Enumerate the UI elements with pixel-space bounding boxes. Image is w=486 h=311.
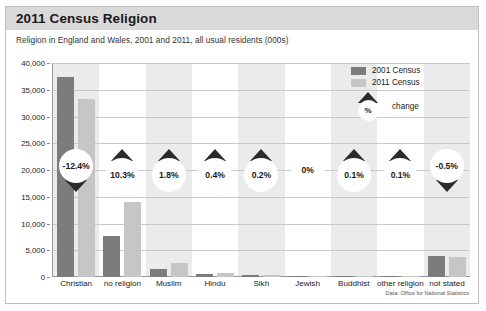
y-tick-mark xyxy=(47,143,50,144)
y-axis: 40,00035,00030,00025,00020,00015,00010,0… xyxy=(6,63,50,277)
card-header: 2011 Census Religion xyxy=(6,7,478,30)
x-tick-label: Muslim xyxy=(146,279,192,288)
legend-item-change: % change xyxy=(351,91,476,121)
y-tick-mark xyxy=(47,250,50,251)
change-badge: 0% xyxy=(288,139,328,201)
change-badge-label: 10.3% xyxy=(105,158,139,192)
legend: 2001 Census 2011 Census % change xyxy=(351,65,476,121)
y-tick-mark xyxy=(47,170,50,171)
bar-group: 1.8% xyxy=(146,63,192,277)
change-badge-label: 0.1% xyxy=(383,158,417,192)
y-tick-label: 10,000 xyxy=(21,219,45,228)
bar-2001 xyxy=(428,256,445,277)
bar-group: 0% xyxy=(285,63,331,277)
x-tick-label: Sikh xyxy=(238,279,284,288)
x-tick-label: Jewish xyxy=(284,279,330,288)
x-tick-label: Christian xyxy=(53,279,99,288)
y-tick-mark xyxy=(47,224,50,225)
change-badge: 0.1% xyxy=(334,139,374,201)
x-tick-label: Hindu xyxy=(192,279,238,288)
change-marker-icon: % xyxy=(351,91,385,121)
change-badge: 0.1% xyxy=(380,139,420,201)
legend-label-change: change xyxy=(392,102,419,111)
percent-badge-icon: % xyxy=(358,100,379,121)
bar-2001 xyxy=(289,276,306,277)
bar-group: 0.4% xyxy=(192,63,238,277)
bar-group: 0.2% xyxy=(238,63,284,277)
change-badge: 1.8% xyxy=(149,139,189,201)
y-tick-label: 20,000 xyxy=(21,166,45,175)
change-badge-label: 0% xyxy=(291,153,325,187)
bar-2011 xyxy=(124,202,141,277)
y-tick-label: 5,000 xyxy=(25,246,45,255)
change-badge: 0.2% xyxy=(241,139,281,201)
y-tick-mark xyxy=(47,90,50,91)
y-tick-mark xyxy=(47,197,50,198)
chart-subtitle: Religion in England and Wales, 2001 and … xyxy=(16,35,289,45)
legend-label-2011: 2011 Census xyxy=(372,78,420,87)
bar-2001 xyxy=(335,276,352,277)
chart-card: 2011 Census Religion Religion in England… xyxy=(5,6,479,304)
page-title: 2011 Census Religion xyxy=(16,11,157,26)
change-badge: 10.3% xyxy=(102,139,142,201)
change-badge-label: 0.1% xyxy=(337,158,371,192)
change-badge-label: 0.2% xyxy=(244,158,278,192)
y-tick-label: 40,000 xyxy=(21,59,45,68)
change-badge-label: 0.4% xyxy=(198,158,232,192)
y-tick-label: 35,000 xyxy=(21,85,45,94)
bar-group: 10.3% xyxy=(99,63,145,277)
legend-item-2011: 2011 Census xyxy=(351,77,476,88)
bar-2011 xyxy=(449,257,466,277)
legend-swatch-2001-icon xyxy=(351,67,366,75)
change-badge-label: -12.4% xyxy=(59,149,93,183)
change-badge: 0.4% xyxy=(195,139,235,201)
bar-2011 xyxy=(402,276,419,277)
bar-2001 xyxy=(242,275,259,277)
source-note: Data: Office for National Statistics xyxy=(385,290,469,296)
bar-2011 xyxy=(217,273,234,277)
legend-swatch-2011-icon xyxy=(351,79,366,87)
bar-2001 xyxy=(196,274,213,277)
bar-2011 xyxy=(356,276,373,277)
bar-2011 xyxy=(310,276,327,277)
bar-2001 xyxy=(150,269,167,277)
x-axis-labels: Christianno religionMuslimHinduSikhJewis… xyxy=(53,279,470,288)
x-tick-label: not stated xyxy=(424,279,470,288)
x-tick-label: Buddhist xyxy=(331,279,377,288)
x-tick-label: no religion xyxy=(99,279,145,288)
y-tick-label: 15,000 xyxy=(21,192,45,201)
y-tick-label: 30,000 xyxy=(21,112,45,121)
y-tick-mark xyxy=(47,277,50,278)
change-badge: -0.5% xyxy=(427,139,467,201)
change-badge-label: 1.8% xyxy=(152,158,186,192)
legend-item-2001: 2001 Census xyxy=(351,65,476,76)
bar-2011 xyxy=(263,275,280,277)
change-badge: -12.4% xyxy=(56,139,96,201)
y-tick-mark xyxy=(47,63,50,64)
x-tick-label: other religion xyxy=(377,279,424,288)
y-tick-label: 0 xyxy=(41,273,45,282)
bar-group: -12.4% xyxy=(53,63,99,277)
legend-label-2001: 2001 Census xyxy=(372,66,420,75)
change-badge-label: -0.5% xyxy=(430,149,464,183)
y-tick-mark xyxy=(47,117,50,118)
bar-2001 xyxy=(103,236,120,277)
bar-2001 xyxy=(381,276,398,277)
y-tick-label: 25,000 xyxy=(21,139,45,148)
bar-2011 xyxy=(171,263,188,277)
